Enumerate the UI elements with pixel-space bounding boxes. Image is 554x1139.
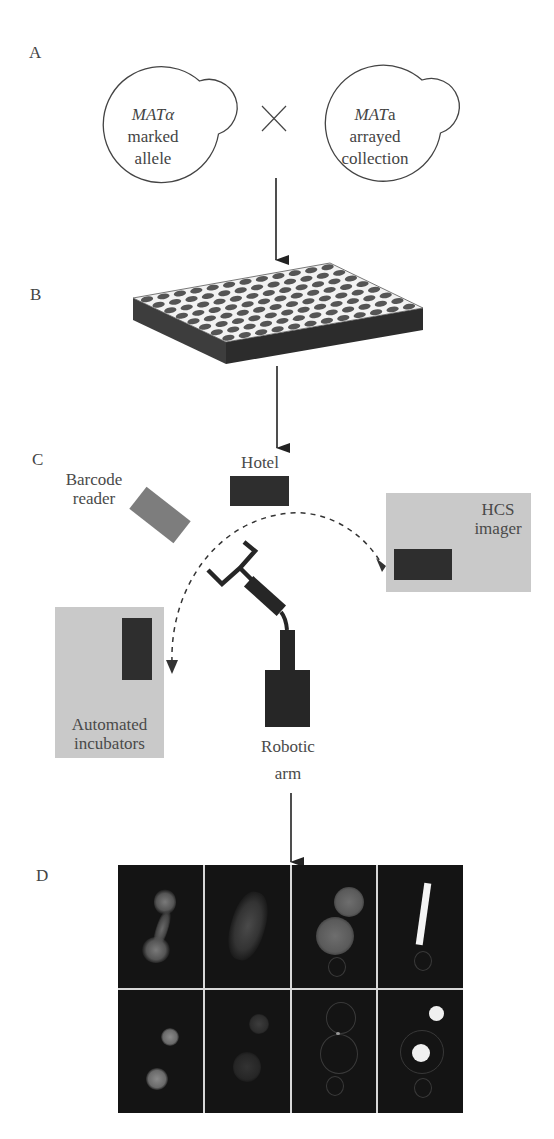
- micro-image-r1c4: [378, 865, 463, 988]
- micro-image-r1c2: [205, 865, 290, 988]
- micro-image-r2c3: [292, 990, 377, 1113]
- cell-right-line3: collection: [319, 148, 431, 170]
- cell-right-label: MATa arrayed collection: [319, 104, 431, 170]
- barcode-reader-label: Barcode reader: [52, 470, 136, 508]
- cell-left-label: MATα marked allele: [103, 104, 203, 170]
- barcode-reader-line1: Barcode: [52, 470, 136, 489]
- incubators-line2: incubators: [55, 734, 164, 753]
- micro-image-r1c3: [292, 865, 377, 988]
- arrowhead-to-imager-icon: [376, 558, 386, 572]
- hcs-imager-slot: [394, 549, 452, 580]
- genotype-left-suffix: α: [165, 105, 174, 124]
- micro-image-r2c4: [378, 990, 463, 1113]
- micro-image-r2c2: [205, 990, 290, 1113]
- hotel-block: [230, 476, 289, 506]
- incubators-line1: Automated: [55, 715, 164, 734]
- arrowhead-to-incubator-icon: [166, 660, 178, 674]
- incubator-slot: [122, 618, 152, 680]
- genotype-left-italic: MAT: [132, 105, 165, 124]
- micro-image-r2c1: [118, 990, 203, 1113]
- genotype-right-italic: MAT: [355, 105, 388, 124]
- micro-image-r1c1: [118, 865, 203, 988]
- genotype-right-suffix: a: [388, 105, 396, 124]
- barcode-reader-line2: reader: [52, 489, 136, 508]
- cell-left-line3: allele: [103, 148, 203, 170]
- robotic-arm-line2: arm: [248, 760, 328, 787]
- hcs-imager-line2: imager: [468, 519, 528, 538]
- robotic-arm-line1: Robotic: [248, 733, 328, 760]
- cell-right-line2: arrayed: [319, 126, 431, 148]
- barcode-reader-block: [129, 487, 190, 544]
- cross-symbol-icon: [262, 106, 286, 131]
- hcs-imager-line1: HCS: [468, 500, 528, 519]
- incubators-label: Automated incubators: [55, 715, 164, 753]
- robotic-arm-label: Robotic arm: [248, 733, 328, 787]
- hotel-label: Hotel: [228, 453, 292, 472]
- cell-left-line2: marked: [103, 126, 203, 148]
- well-plate-icon: [133, 263, 423, 364]
- microscopy-image-grid: [118, 865, 463, 1113]
- hcs-imager-label: HCS imager: [468, 500, 528, 538]
- transfer-path-arc: [172, 513, 381, 662]
- robotic-arm-icon: [208, 542, 310, 727]
